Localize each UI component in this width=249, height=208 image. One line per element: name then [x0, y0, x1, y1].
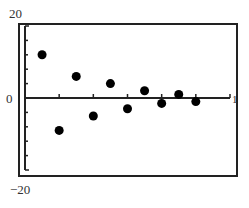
data-point	[55, 126, 64, 135]
data-point	[191, 97, 200, 106]
data-point	[123, 104, 132, 113]
data-point	[140, 86, 149, 95]
data-point	[106, 79, 115, 88]
data-point	[174, 90, 183, 99]
data-points	[38, 50, 201, 135]
y-tick-label-top: 20	[9, 6, 22, 21]
y-tick-label-bottom: −20	[10, 182, 30, 197]
data-point	[38, 50, 47, 59]
scatter-chart: 20 0 −20 1	[0, 0, 249, 208]
data-point	[157, 99, 166, 108]
plot-frame	[19, 24, 237, 176]
chart-canvas: 20 0 −20 1	[0, 0, 249, 208]
x-tick-label-right: 1	[232, 93, 238, 105]
data-point	[89, 112, 98, 121]
data-point	[72, 72, 81, 81]
y-tick-label-zero: 0	[6, 91, 13, 106]
